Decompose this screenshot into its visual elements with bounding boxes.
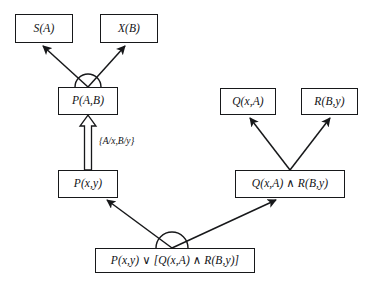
node-q-xa-label: Q(x,A): [232, 96, 264, 108]
node-p-xy: P(x,y): [58, 170, 118, 198]
edge-pab-to-xb: [88, 46, 125, 87]
node-s-a: S(A): [15, 14, 73, 43]
node-q-xa: Q(x,A): [220, 88, 276, 115]
node-conjunction-label: Q(x,A) ∧ R(B,y): [252, 178, 328, 190]
node-s-a-label: S(A): [34, 23, 55, 35]
node-x-b-label: X(B): [118, 23, 140, 35]
edge-root-to-pxy: [107, 200, 172, 248]
edge-conjunction-to-rby: [290, 118, 330, 170]
edge-conjunction-to-qxa: [250, 118, 290, 170]
and-or-proof-diagram: S(A) X(B) P(A,B) Q(x,A) R(B,y) P(x,y) Q(…: [0, 0, 371, 286]
node-r-by: R(B,y): [301, 88, 358, 115]
node-conjunction: Q(x,A) ∧ R(B,y): [235, 170, 345, 198]
node-p-xy-label: P(x,y): [74, 178, 102, 190]
node-root-clause-label: P(x,y) ∨ [Q(x,A) ∧ R(B,y)]: [111, 255, 239, 267]
node-p-ab-label: P(A,B): [72, 95, 104, 107]
node-x-b: X(B): [100, 14, 158, 43]
hollow-substitution-arrow: [80, 115, 96, 170]
node-r-by-label: R(B,y): [314, 96, 344, 108]
substitution-label: {A/x,B/y}: [99, 136, 134, 146]
edge-root-to-conjunction: [172, 200, 276, 248]
node-root-clause: P(x,y) ∨ [Q(x,A) ∧ R(B,y)]: [95, 248, 255, 273]
edge-pab-to-sa: [43, 46, 88, 87]
node-p-ab: P(A,B): [58, 87, 118, 115]
